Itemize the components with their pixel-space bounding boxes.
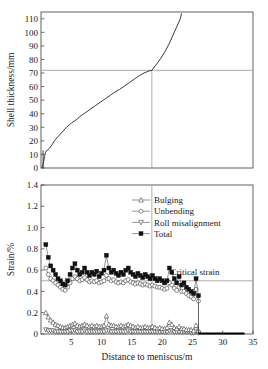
bottom-ytick-label: 0.4 — [27, 287, 39, 297]
bottom-xtick-label: 25 — [188, 337, 198, 347]
bottom-xtick-label: 20 — [158, 337, 168, 347]
data-marker — [170, 270, 174, 274]
data-marker — [46, 255, 50, 259]
top-ytick-label: 20 — [29, 136, 39, 146]
bottom-panel: 00.20.40.60.81.01.21.45101520253035Strai… — [6, 180, 258, 362]
bottom-xtick-label: 35 — [249, 337, 259, 347]
bottom-panel-frame — [41, 185, 253, 334]
data-marker — [80, 270, 84, 274]
data-marker — [177, 275, 181, 279]
top-ytick-label: 110 — [25, 14, 39, 24]
top-ytick-label: 70 — [29, 68, 39, 78]
legend-item-bulging[interactable]: Bulging — [132, 195, 184, 205]
bottom-xtick-label: 5 — [69, 337, 74, 347]
top-panel: 0102030405060708090100110Shell thickness… — [6, 12, 253, 173]
legend-marker-square-filled — [139, 232, 143, 236]
top-ytick-label: 40 — [29, 109, 39, 119]
legend-item-label: Roll misalignment — [154, 218, 221, 228]
legend-item-label: Total — [154, 229, 173, 239]
bottom-ytick-label: 0.8 — [27, 244, 39, 254]
bottom-ytick-label: 0.2 — [27, 308, 38, 318]
top-panel-frame — [41, 12, 253, 168]
legend-item-total[interactable]: Total — [132, 229, 173, 239]
data-marker — [44, 266, 48, 270]
data-marker — [107, 266, 111, 270]
data-marker — [66, 279, 70, 283]
data-marker — [44, 243, 48, 247]
data-marker — [83, 266, 87, 270]
data-marker — [165, 279, 169, 283]
top-ytick-label: 80 — [29, 55, 39, 65]
data-marker — [165, 286, 169, 290]
top-ytick-label: 90 — [29, 41, 39, 51]
figure-container: 0102030405060708090100110Shell thickness… — [0, 0, 268, 369]
bottom-ytick-label: 1.0 — [27, 223, 39, 233]
shell-thickness-curve — [42, 13, 182, 167]
bottom-xlabel: Distance to meniscus/m — [102, 352, 193, 362]
bottom-xtick-label: 30 — [218, 337, 228, 347]
data-marker — [167, 266, 171, 270]
legend-item-label: Unbending — [154, 206, 194, 216]
legend-item-unbending[interactable]: Unbending — [132, 206, 194, 216]
top-ytick-label: 30 — [29, 123, 39, 133]
bottom-xtick-label: 10 — [97, 337, 107, 347]
bottom-ytick-label: 0.6 — [27, 265, 39, 275]
legend-item-roll-misalignment[interactable]: Roll misalignment — [132, 218, 221, 228]
top-ytick-label: 100 — [25, 28, 39, 38]
top-ytick-label: 50 — [29, 95, 39, 105]
top-ytick-label: 0 — [34, 163, 39, 173]
data-marker — [46, 315, 51, 319]
data-marker — [182, 281, 186, 285]
data-marker — [95, 269, 99, 273]
bottom-ytick-label: 0 — [34, 329, 39, 339]
data-marker — [192, 292, 196, 296]
data-marker — [75, 268, 79, 272]
scientific-figure: 0102030405060708090100110Shell thickness… — [0, 0, 268, 369]
data-marker — [51, 268, 55, 272]
data-marker — [70, 266, 74, 270]
bottom-ylabel: Strain/% — [6, 243, 16, 276]
data-marker — [104, 253, 108, 257]
data-marker — [172, 277, 176, 281]
data-marker — [68, 272, 72, 276]
data-marker — [175, 281, 179, 285]
data-marker — [194, 323, 199, 327]
legend-marker-circle-open — [139, 209, 143, 213]
bottom-xtick-label: 15 — [127, 337, 137, 347]
top-ytick-label: 60 — [29, 82, 39, 92]
bottom-ytick-label: 1.2 — [27, 201, 38, 211]
data-marker — [54, 272, 58, 276]
data-marker — [121, 272, 125, 276]
data-marker — [194, 277, 198, 281]
data-marker — [192, 297, 196, 301]
legend-item-label: Bulging — [154, 195, 184, 205]
data-marker — [46, 272, 50, 276]
data-marker — [102, 279, 106, 283]
data-marker — [102, 268, 106, 272]
top-ylabel: Shell thickness/mm — [6, 52, 16, 127]
bottom-ytick-label: 1.4 — [27, 180, 39, 190]
legend: BulgingUnbendingRoll misalignmentTotal — [132, 195, 221, 239]
data-marker — [73, 262, 77, 266]
data-marker — [63, 283, 67, 287]
data-marker — [126, 266, 130, 270]
data-marker — [49, 264, 53, 268]
top-ytick-label: 10 — [29, 150, 39, 160]
data-marker — [196, 294, 200, 298]
data-marker — [104, 314, 109, 318]
